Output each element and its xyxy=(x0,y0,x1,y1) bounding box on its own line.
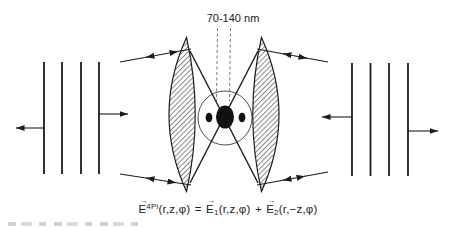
arrowhead-top-left-outward xyxy=(146,56,154,57)
left-wavefront-stack xyxy=(44,62,99,174)
term1-arguments: (r,z,φ) xyxy=(219,203,251,215)
vector-arrow-icon: → xyxy=(139,197,147,205)
cropped-caption-fragment xyxy=(8,222,138,226)
arrowhead-bottom-right-inward xyxy=(283,179,291,180)
vector-arrow-icon: → xyxy=(267,197,275,205)
4pi-focusing-diagram: 70-140 nm xyxy=(0,0,449,228)
arrowhead-bottom-left-inward xyxy=(168,182,176,183)
arrowhead-bottom-left-outward xyxy=(146,178,154,179)
spot-size-label: 70-140 nm xyxy=(207,12,260,24)
vector-arrow-icon: → xyxy=(207,197,215,205)
focal-spot-side-lobe-left xyxy=(206,113,213,123)
focal-spot-side-lobe-right xyxy=(239,113,246,123)
field-superposition-equation: →E4Pi(r,z,φ) = →E1(r,z,φ) + →E2(r,−z,φ) xyxy=(138,202,317,217)
arrowhead-bottom-right-outward xyxy=(297,176,305,177)
arrowhead-top-right-outward xyxy=(299,57,307,58)
spot-width-guide-right xyxy=(230,28,231,101)
term2-arguments: (r,−z,φ) xyxy=(279,203,318,215)
objective-lens-right xyxy=(253,38,279,192)
objective-lens-left xyxy=(169,38,195,192)
focal-spot-main-lobe xyxy=(216,106,234,129)
vector-E1: →E xyxy=(206,203,214,215)
superscript-4pi: 4Pi xyxy=(146,202,158,211)
spot-width-guide-left xyxy=(217,28,218,101)
right-wavefront-stack xyxy=(352,63,408,176)
vector-E2: →E xyxy=(266,203,274,215)
equals-sign: = xyxy=(194,203,203,215)
lhs-arguments: (r,z,φ) xyxy=(159,203,191,215)
plus-sign: + xyxy=(254,203,263,215)
vector-E-4pi: →E xyxy=(138,203,146,215)
arrowhead-top-right-inward xyxy=(283,54,291,55)
4pi-microscopy-figure: 70-140 nm →E4Pi(r,z,φ) = →E1(r,z,φ) + →E… xyxy=(0,0,449,228)
